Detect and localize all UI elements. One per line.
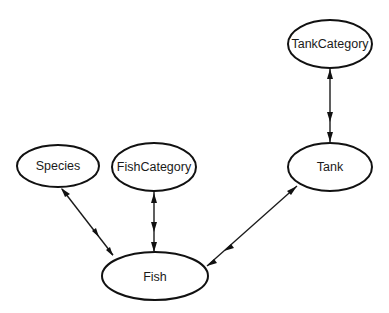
arrow-head-one-icon (327, 69, 333, 79)
node-label-fish: Fish (143, 270, 167, 284)
node-tankcategory[interactable]: TankCategory (288, 20, 372, 68)
node-label-species: Species (36, 159, 80, 173)
edge-tankcategory-tank (327, 68, 333, 142)
arrow-head-many-mid-icon (327, 112, 333, 122)
edge-fishcategory-fish (151, 192, 157, 252)
edge-tank-fish (207, 186, 297, 266)
arrow-head-one-icon (151, 193, 157, 203)
node-label-tankcategory: TankCategory (291, 37, 369, 51)
diagram-canvas: Species FishCategory TankCategory Tank F… (0, 0, 389, 313)
arrow-head-many-end-icon (151, 242, 157, 252)
arrow-head-one-icon (61, 188, 70, 197)
arrow-head-many-mid-icon (224, 244, 234, 251)
node-species[interactable]: Species (17, 145, 99, 187)
arrow-head-many-end-icon (327, 132, 333, 142)
node-label-tank: Tank (317, 160, 344, 174)
arrow-head-many-mid-icon (151, 222, 157, 232)
node-label-fishcategory: FishCategory (117, 160, 192, 174)
node-fish[interactable]: Fish (102, 252, 208, 300)
node-tank[interactable]: Tank (288, 143, 372, 191)
nodes-layer: Species FishCategory TankCategory Tank F… (17, 20, 372, 300)
edge-species-fish (61, 188, 113, 256)
node-fishcategory[interactable]: FishCategory (112, 143, 196, 191)
arrow-head-many-end-icon (207, 259, 217, 266)
